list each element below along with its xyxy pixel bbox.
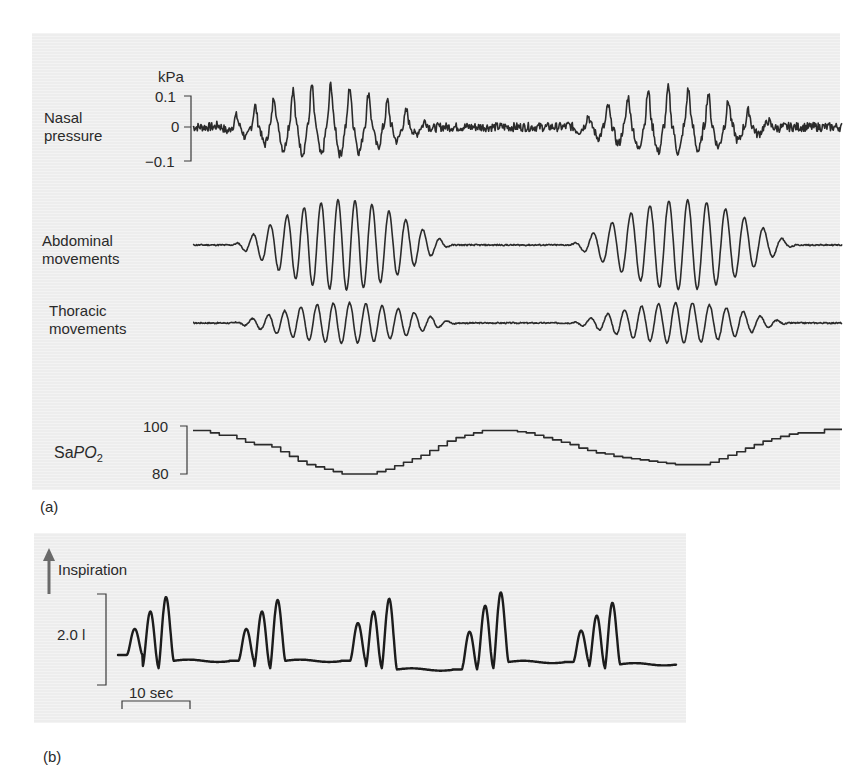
nasal-pressure-trace	[193, 82, 842, 158]
sapo2-trace	[193, 429, 842, 474]
nasal-tick-label-zero: 0	[171, 118, 179, 135]
sapo2-tick-label-80: 80	[152, 465, 169, 482]
figure-svg: kPa 0.1 0 −0.1 100 80	[0, 0, 862, 774]
abdominal-movements-trace	[193, 200, 842, 291]
nasal-pressure-bracket	[184, 96, 191, 161]
sapo2-bracket	[180, 426, 187, 474]
volume-scale-bracket	[97, 594, 106, 685]
sapo2-axis: 100 80	[143, 418, 187, 482]
nasal-tick-label-top: 0.1	[155, 88, 176, 105]
nasal-tick-label-bottom: −0.1	[145, 153, 175, 170]
sapo2-tick-label-100: 100	[143, 418, 168, 435]
nasal-pressure-unit: kPa	[158, 68, 185, 85]
nasal-pressure-axis: kPa 0.1 0 −0.1	[145, 68, 191, 170]
inspiration-arrow-icon	[43, 548, 55, 594]
time-scale-bar	[122, 701, 190, 709]
breathing-volume-trace	[118, 593, 676, 671]
thoracic-movements-trace	[193, 302, 842, 343]
